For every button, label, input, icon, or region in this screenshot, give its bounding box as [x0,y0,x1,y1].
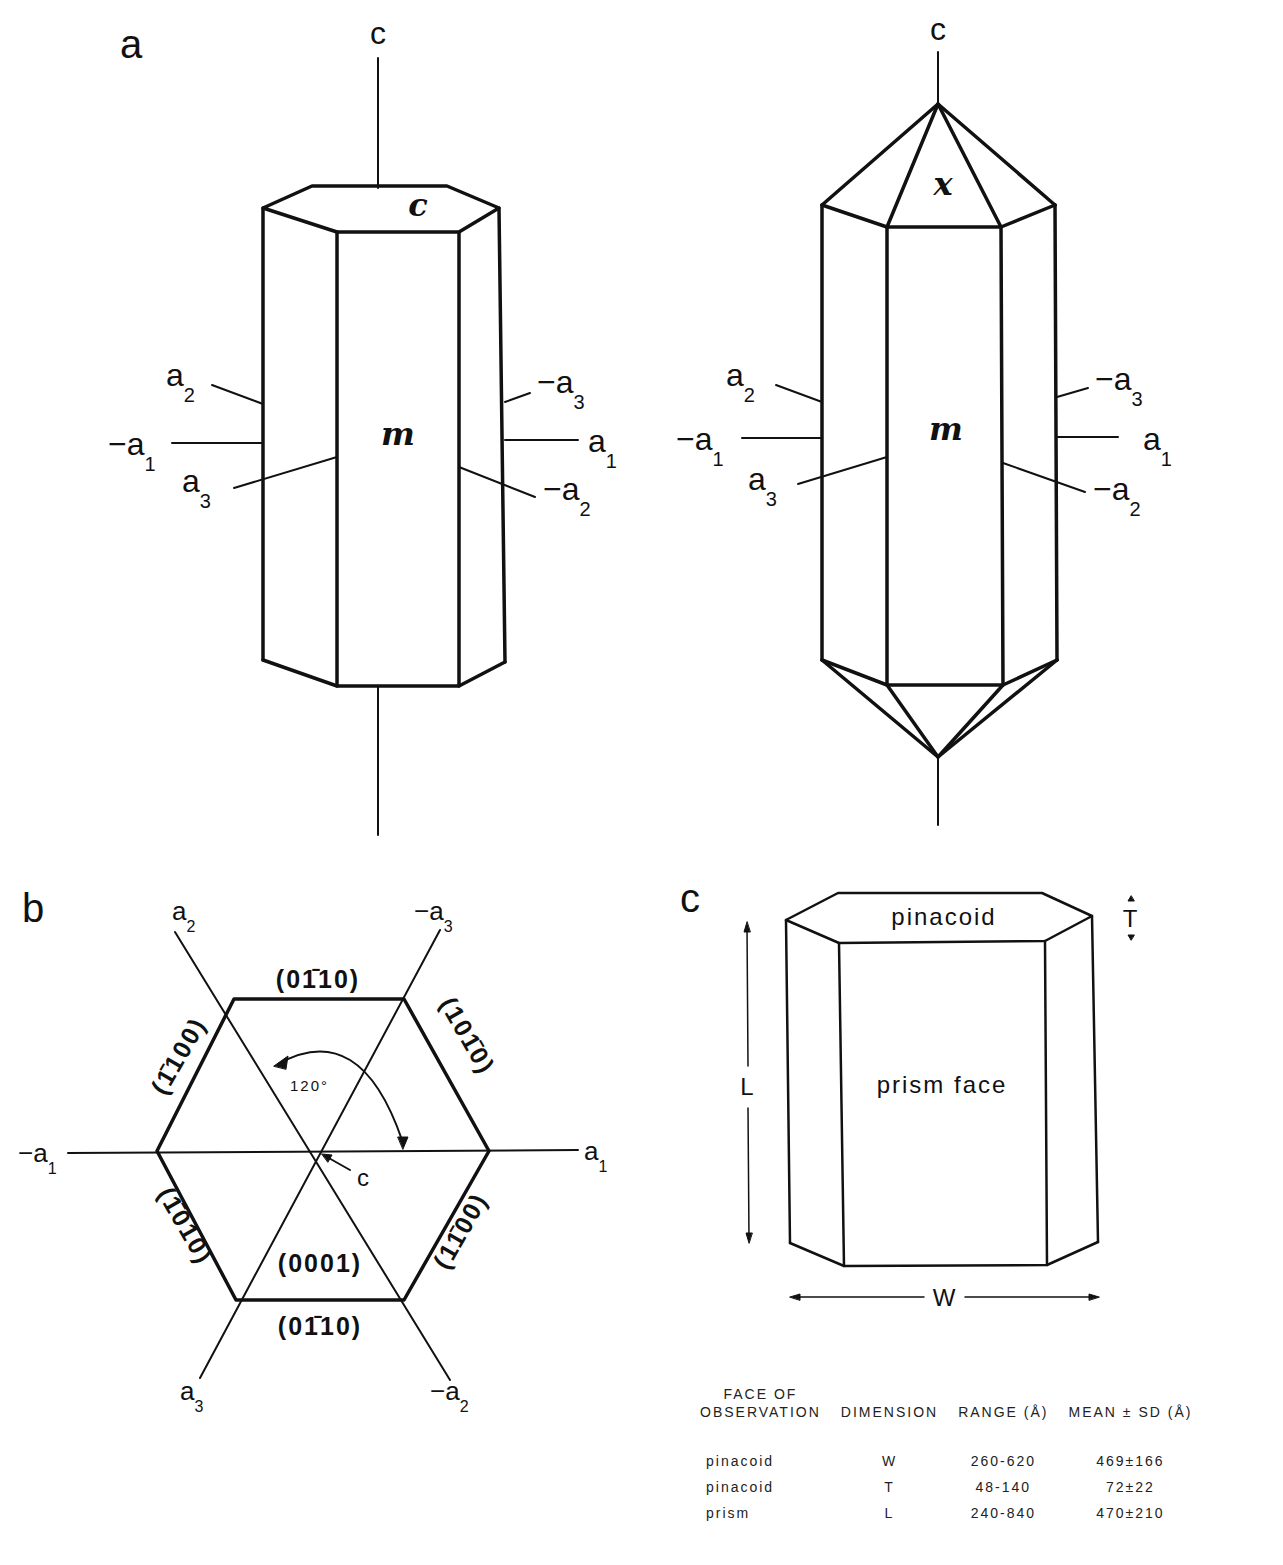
svg-text:−a2: −a2 [543,471,591,520]
face-bottom-label: (01̄10) [278,1312,362,1340]
dimension-table: FACE OFOBSERVATION DIMENSION RANGE (Å) M… [690,1385,1202,1527]
crystal-figure: a c c m a2 −a1 a3 −a3 a1 −a2 [0,0,1283,1565]
face-upper-right-label: (101̄0) [435,992,501,1079]
svg-text:−a1: −a1 [18,1138,57,1177]
c-axis-label: c [370,15,386,51]
col-face: FACE OFOBSERVATION [690,1385,831,1449]
col-range: RANGE (Å) [948,1385,1058,1449]
m-face-label: m [381,415,415,453]
angle-label: 120° [290,1077,329,1094]
svg-text:a2: a2 [166,357,195,406]
thickness-label: T [1123,905,1140,932]
table-row: prism L 240-840 470±210 [690,1501,1202,1527]
svg-text:a1: a1 [1143,421,1172,470]
x-face-label: x [932,165,953,203]
svg-text:a3: a3 [182,463,211,512]
svg-text:−a2: −a2 [430,1376,469,1415]
m-face-label-right: m [929,410,963,448]
c-face-label: c [408,186,427,224]
col-mean: MEAN ± SD (Å) [1059,1385,1203,1449]
svg-text:−a3: −a3 [414,896,453,935]
c-axis-point-label: c [357,1164,371,1191]
face-upper-left-label: (1̄100) [145,1012,211,1099]
svg-text:a2: a2 [172,896,195,935]
panel-a-label: a [120,22,143,66]
face-top-label: (01̄10) [276,965,360,993]
prism-face-label: prism face [877,1071,1008,1098]
panel-b-label: b [22,886,44,930]
svg-text:a1: a1 [588,423,617,472]
svg-text:−a1: −a1 [676,421,724,470]
svg-text:−a1: −a1 [108,426,156,475]
face-lower-left-label: (1̄010) [153,1182,219,1269]
svg-text:a1: a1 [584,1136,607,1175]
length-label: L [740,1073,755,1100]
table-header: FACE OFOBSERVATION DIMENSION RANGE (Å) M… [690,1385,1202,1449]
table-row: pinacoid W 260-620 469±166 [690,1449,1202,1475]
left-hexagonal-prism [172,58,578,835]
svg-text:a3: a3 [748,461,777,510]
table-row: pinacoid T 48-140 72±22 [690,1475,1202,1501]
face-center-label: (0001) [278,1249,362,1277]
svg-text:a2: a2 [726,357,755,406]
left-crystal-axis-labels: a2 −a1 a3 −a3 a1 −a2 [108,357,617,520]
col-dimension: DIMENSION [831,1385,948,1449]
width-label: W [933,1284,958,1311]
svg-text:−a3: −a3 [537,364,585,413]
svg-text:−a3: −a3 [1095,361,1143,410]
svg-text:−a2: −a2 [1093,471,1141,520]
pinacoid-label: pinacoid [891,903,996,930]
c-axis-label-right: c [930,11,946,47]
svg-text:a3: a3 [180,1376,203,1415]
panel-c-label: c [680,876,700,920]
